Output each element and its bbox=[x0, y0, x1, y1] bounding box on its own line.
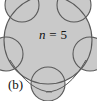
n-value-label: n = 5 bbox=[39, 28, 67, 41]
n-variable: n bbox=[39, 27, 46, 42]
subfigure-label: (b) bbox=[8, 78, 23, 91]
n-relation: = bbox=[46, 27, 61, 42]
figure-panel-b: n = 5 (b) bbox=[0, 0, 97, 101]
n-value: 5 bbox=[61, 27, 68, 42]
